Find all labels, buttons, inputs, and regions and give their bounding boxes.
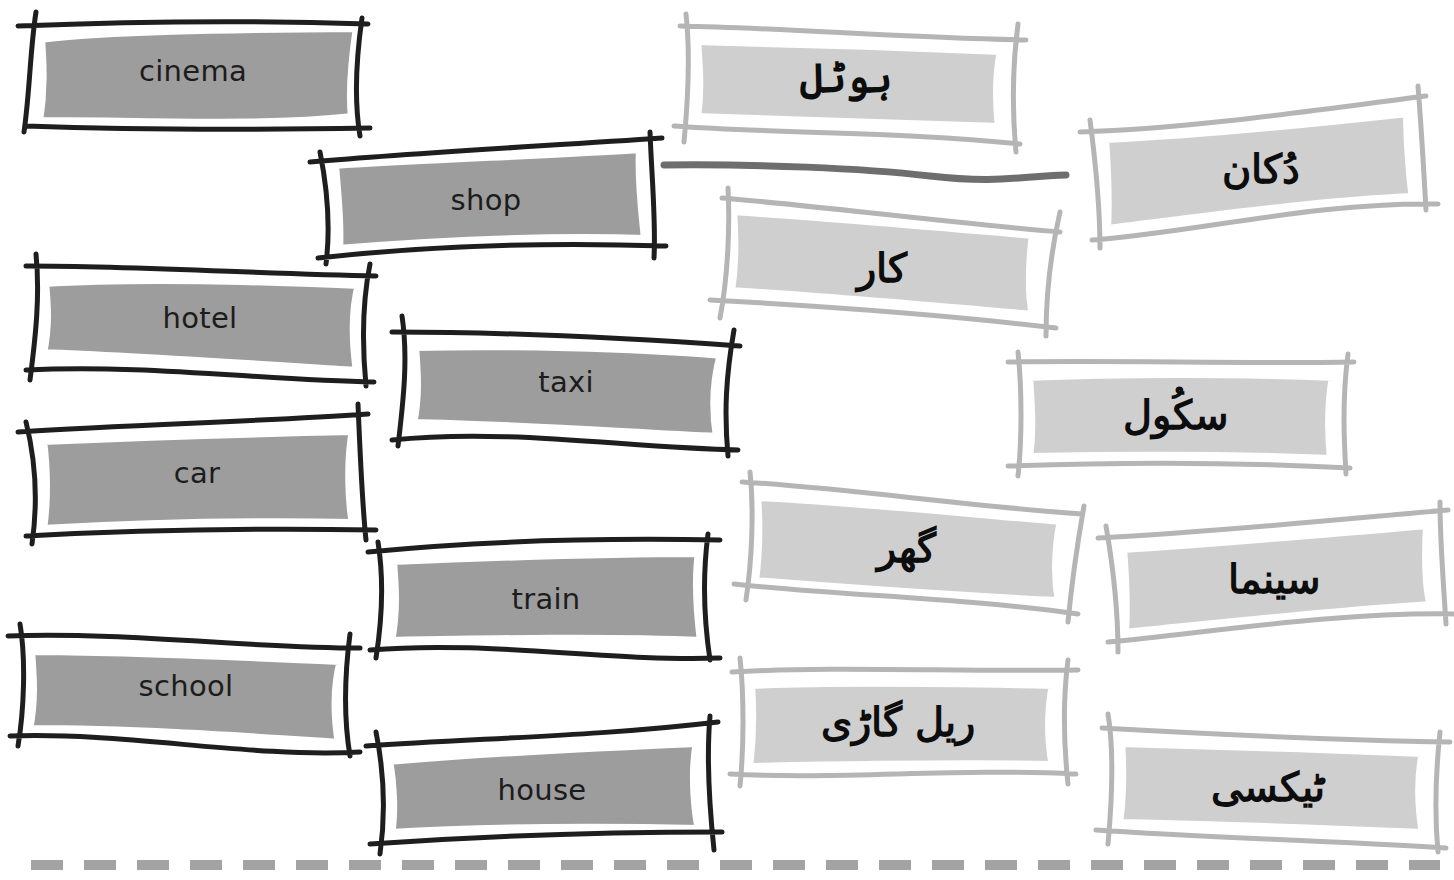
dashed-divider [0, 0, 1454, 880]
